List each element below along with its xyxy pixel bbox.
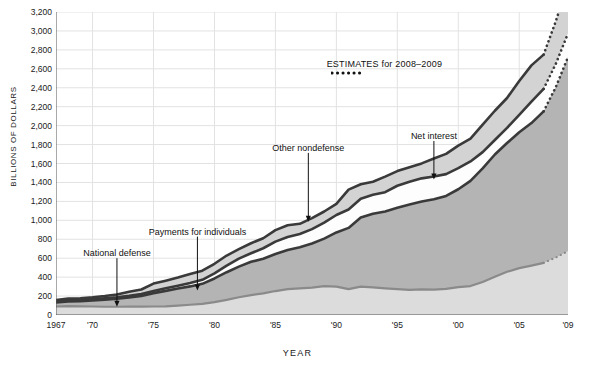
y-tick-label: 1,800 — [16, 140, 52, 150]
y-tick-label: 1,000 — [16, 215, 52, 225]
x-tick-label: '80 — [209, 320, 220, 330]
y-tick-label: 1,200 — [16, 196, 52, 206]
plot-svg — [56, 12, 568, 315]
area-band — [56, 57, 568, 315]
chart-annotation-label: Other nondefense — [272, 143, 344, 153]
y-tick-label: 3,000 — [16, 26, 52, 36]
y-tick-label: 2,200 — [16, 102, 52, 112]
x-tick-label: '00 — [453, 320, 464, 330]
y-axis-tick-labels: 02004006008001,0001,2001,4001,6001,8002,… — [0, 0, 52, 369]
plot-area — [56, 12, 568, 315]
y-tick-label: 1,400 — [16, 177, 52, 187]
estimates-legend-label: ESTIMATES for 2008–2009 — [327, 59, 443, 69]
chart-annotation-label: Payments for individuals — [149, 227, 247, 237]
x-axis-title: YEAR — [0, 348, 595, 358]
x-tick-label: '75 — [148, 320, 159, 330]
y-tick-label: 3,200 — [16, 7, 52, 17]
y-tick-label: 1,600 — [16, 159, 52, 169]
x-tick-label: '09 — [562, 320, 573, 330]
y-tick-label: 0 — [16, 310, 52, 320]
expenditures-area-chart: BILLIONS OF DOLLARS 02004006008001,0001,… — [0, 0, 595, 369]
chart-annotation-label: Net interest — [411, 131, 457, 141]
x-tick-label: 1967 — [47, 320, 66, 330]
y-tick-label: 2,800 — [16, 45, 52, 55]
y-tick-label: 200 — [16, 291, 52, 301]
y-tick-label: 2,400 — [16, 83, 52, 93]
x-tick-label: '70 — [87, 320, 98, 330]
y-tick-label: 600 — [16, 253, 52, 263]
y-tick-label: 2,600 — [16, 64, 52, 74]
estimates-dotted-swatch — [331, 69, 365, 77]
y-tick-label: 800 — [16, 234, 52, 244]
y-tick-label: 400 — [16, 272, 52, 282]
y-tick-label: 2,000 — [16, 121, 52, 131]
x-tick-label: '90 — [331, 320, 342, 330]
x-tick-label: '85 — [270, 320, 281, 330]
x-tick-label: '05 — [514, 320, 525, 330]
estimates-legend: ESTIMATES for 2008–2009 — [327, 59, 443, 77]
x-tick-label: '95 — [392, 320, 403, 330]
chart-annotation-label: National defense — [83, 248, 151, 258]
